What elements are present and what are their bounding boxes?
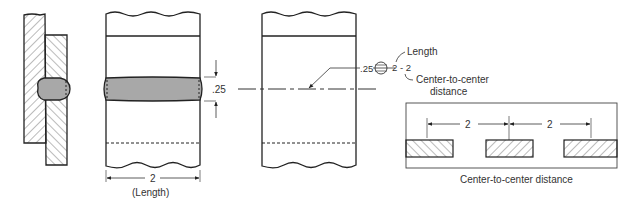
weld-drawing: .25 2 (Length) .25 2 - 2 Length Center-t… bbox=[0, 0, 629, 203]
plate-segment-3 bbox=[564, 140, 617, 157]
weld-size: .25 bbox=[360, 63, 373, 74]
weld-symbol: .25 2 - 2 Length Center-to-center distan… bbox=[360, 46, 489, 97]
plate-segment-1 bbox=[406, 140, 453, 157]
pitch-right: 2 bbox=[547, 119, 553, 130]
plug-weld bbox=[38, 78, 70, 100]
pitch-caption: Center-to-center distance bbox=[460, 174, 573, 185]
section-view bbox=[24, 14, 70, 165]
symbol-view bbox=[238, 12, 380, 168]
center-to-center-callout: Center-to-center bbox=[416, 74, 489, 85]
length-pitch: 2 - 2 bbox=[392, 62, 411, 73]
plan-view: .25 2 (Length) bbox=[104, 12, 226, 198]
length-callout: Length bbox=[407, 46, 438, 57]
slot-weld bbox=[104, 77, 202, 101]
pitch-detail: 2 2 Center-to-center distance bbox=[406, 103, 617, 185]
pitch-left: 2 bbox=[465, 119, 471, 130]
length-caption: (Length) bbox=[132, 187, 169, 198]
length-dimension: 2 bbox=[150, 173, 156, 184]
plate-segment-2 bbox=[486, 140, 533, 157]
center-to-center-callout-2: distance bbox=[430, 86, 468, 97]
thickness-dimension: .25 bbox=[212, 84, 226, 95]
